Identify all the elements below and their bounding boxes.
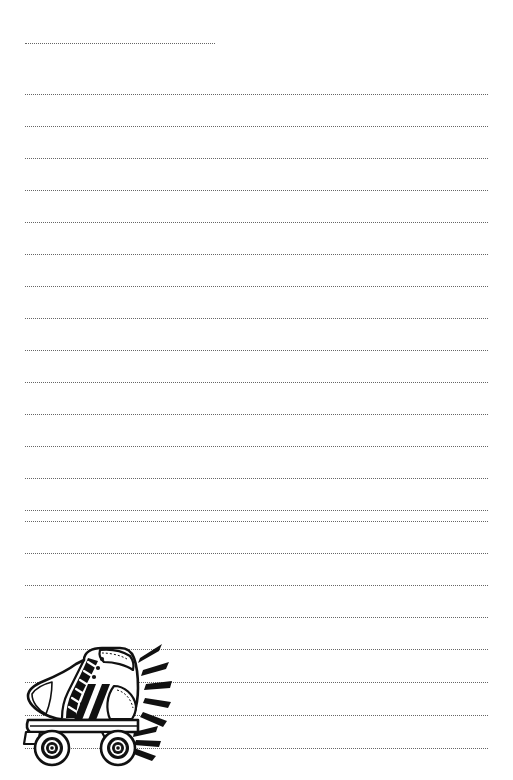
writing-line: [25, 585, 488, 586]
writing-line: [25, 446, 488, 447]
writing-line: [25, 510, 488, 511]
writing-line: [25, 382, 488, 383]
writing-line: [25, 94, 488, 95]
rear-wheel: [101, 731, 135, 765]
writing-line: [25, 553, 488, 554]
writing-line: [25, 190, 488, 191]
front-wheel: [35, 731, 69, 765]
writing-line: [25, 158, 488, 159]
roller-skate-illustration: [22, 640, 182, 770]
writing-paper-page: [0, 0, 513, 780]
writing-line: [25, 350, 488, 351]
writing-line: [25, 43, 215, 44]
writing-line: [25, 254, 488, 255]
writing-line: [25, 318, 488, 319]
writing-line: [25, 286, 488, 287]
writing-line: [25, 617, 488, 618]
writing-line: [25, 521, 488, 522]
writing-line: [25, 478, 488, 479]
writing-line: [25, 126, 488, 127]
writing-line: [25, 414, 488, 415]
writing-line: [25, 222, 488, 223]
